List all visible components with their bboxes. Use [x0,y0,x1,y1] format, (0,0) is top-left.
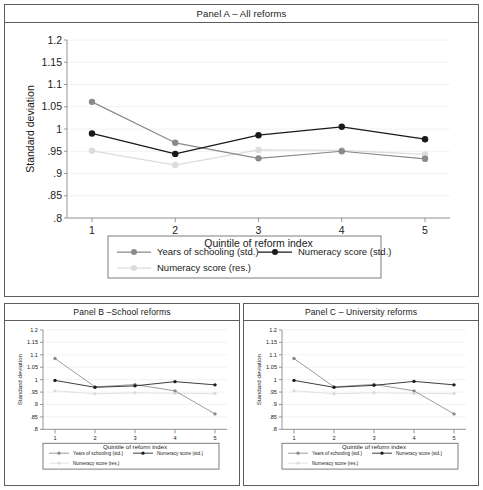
x-tick-label: 2 [172,224,178,236]
y-tick-label: 1 [274,377,277,383]
x-tick-label: 2 [332,435,335,441]
legend-marker [131,265,137,271]
data-point [452,392,455,395]
x-tick-label: 5 [213,435,216,441]
y-tick-label: 1.05 [42,100,63,112]
x-tick-label: 1 [53,435,56,441]
y-tick-label: 1.15 [27,339,38,345]
y-tick-label: 1.15 [42,56,63,68]
data-point [255,155,261,161]
data-point [213,383,216,386]
panel-a-title-bar: Panel A – All reforms [5,5,478,23]
y-tick-label: 1.2 [269,327,277,333]
x-tick-label: 3 [256,224,262,236]
panel-c-title: Panel C – University reforms [305,307,417,317]
data-point [172,151,178,157]
data-point [93,392,96,395]
legend-marker [296,462,299,465]
y-tick-label: 1.1 [30,352,38,358]
panel-b-chart-svg: .8.85.9.9511.051.11.151.212345Quintile o… [5,320,239,485]
data-point [53,379,56,382]
panel-b-title: Panel B –School reforms [73,307,170,317]
data-point [292,357,295,360]
data-point [255,147,261,153]
legend-label: Years of schooling (std.) [73,451,124,456]
x-tick-label: 1 [89,224,95,236]
legend-label: Numeracy score (res.) [157,262,251,273]
panel-a-chart-svg: .8.85.9.9511.051.11.151.212345Quintile o… [5,22,478,296]
x-axis-title: Quintile of reform index [103,443,168,450]
y-tick-label: .85 [30,414,38,420]
x-tick-label: 4 [412,435,415,441]
data-point [213,412,216,415]
panel-a: Panel A – All reforms .8.85.9.9511.051.1… [4,4,479,297]
legend-label: Numeracy score (std.) [396,451,443,456]
data-point [89,99,95,105]
data-point [332,392,335,395]
y-tick-label: .95 [269,389,277,395]
x-tick-label: 2 [93,435,96,441]
y-tick-label: .9 [53,167,62,179]
data-point [53,389,56,392]
y-tick-label: 1.1 [47,78,62,90]
x-tick-label: 5 [422,224,428,236]
y-tick-label: 1.05 [27,364,38,370]
y-axis-title: Standard deviation [255,353,262,405]
data-point [422,156,428,162]
legend-label: Numeracy score (std.) [157,451,204,456]
y-tick-label: 1.05 [266,364,277,370]
data-point [339,148,345,154]
y-tick-label: .95 [47,145,62,157]
y-tick-label: .85 [47,189,62,201]
legend-marker [272,249,278,255]
panel-c-chart-svg: .8.85.9.9511.051.11.151.212345Quintile o… [244,320,478,485]
x-tick-label: 5 [452,435,455,441]
panel-a-plot: .8.85.9.9511.051.11.151.212345Quintile o… [5,22,478,296]
legend-marker [57,452,60,455]
legend-marker [57,462,60,465]
y-tick-label: .8 [33,426,38,432]
data-point [133,391,136,394]
data-point [255,132,261,138]
legend-label: Years of schooling (std.) [157,246,259,257]
y-tick-label: .95 [30,389,38,395]
panel-c-title-bar: Panel C – University reforms [244,304,478,321]
legend-marker [380,452,383,455]
data-point [292,379,295,382]
x-axis-title: Quintile of reform index [342,443,407,450]
panel-c-plot: .8.85.9.9511.051.11.151.212345Quintile o… [244,320,478,485]
data-point [172,140,178,146]
legend-marker [296,452,299,455]
panel-b: Panel B –School reforms .8.85.9.9511.051… [4,303,240,486]
y-tick-label: 1 [35,377,38,383]
y-tick-label: 1.2 [47,34,62,46]
data-point [372,391,375,394]
x-tick-label: 1 [292,435,295,441]
y-axis-title: Standard deviation [16,353,23,405]
data-point [292,389,295,392]
x-tick-label: 4 [339,224,345,236]
x-tick-label: 3 [372,435,375,441]
legend-label: Years of schooling (std.) [312,451,363,456]
data-point [332,386,335,389]
data-point [213,392,216,395]
panel-a-title: Panel A – All reforms [197,8,287,19]
y-axis-title: Standard deviation [24,85,36,173]
y-tick-label: 1.2 [30,327,38,333]
panel-b-title-bar: Panel B –School reforms [5,304,239,321]
data-point [412,389,415,392]
legend-marker [131,249,137,255]
y-tick-label: 1.1 [269,352,277,358]
data-point [172,162,178,168]
y-tick-label: 1 [56,123,62,135]
legend-label: Numeracy score (std.) [298,246,391,257]
y-tick-label: .85 [269,414,277,420]
data-point [173,389,176,392]
data-point [412,380,415,383]
data-point [53,357,56,360]
x-tick-label: 3 [133,435,136,441]
y-tick-label: .9 [33,401,38,407]
data-point [452,383,455,386]
y-tick-label: 1.15 [266,339,277,345]
panel-c: Panel C – University reforms .8.85.9.951… [243,303,479,486]
